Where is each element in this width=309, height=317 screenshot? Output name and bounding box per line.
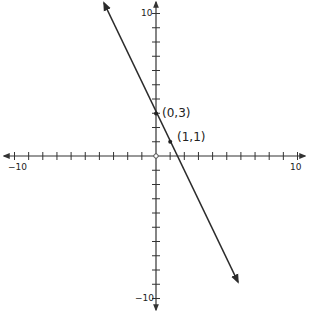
point-0-3-label: (0,3) — [162, 106, 190, 120]
coordinate-plane: −10 10 10 −10 (0,3) (1,1) — [0, 0, 309, 317]
x-min-label: −10 — [8, 162, 27, 172]
origin-marker — [154, 154, 158, 158]
y-min-label: −10 — [135, 293, 154, 303]
y-max-label: 10 — [141, 8, 153, 18]
x-max-label: 10 — [290, 162, 302, 172]
point-0-3 — [154, 111, 158, 115]
point-1-1 — [168, 140, 172, 144]
point-1-1-label: (1,1) — [177, 130, 205, 144]
